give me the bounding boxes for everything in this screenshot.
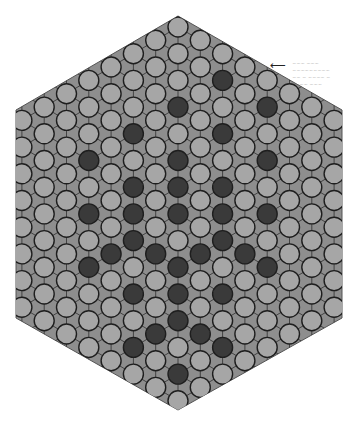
fuel-position-dark xyxy=(146,244,166,264)
fuel-position xyxy=(190,351,210,371)
fuel-position xyxy=(235,217,255,237)
fuel-position-dark xyxy=(79,204,99,224)
fuel-position xyxy=(57,271,77,291)
fuel-position xyxy=(324,110,344,130)
fuel-position xyxy=(101,271,121,291)
fuel-position xyxy=(235,191,255,211)
fuel-position xyxy=(34,284,54,304)
fuel-position-dark xyxy=(123,231,143,251)
fuel-position xyxy=(146,351,166,371)
fuel-position xyxy=(79,284,99,304)
fuel-position xyxy=(101,191,121,211)
fuel-position-dark xyxy=(168,204,188,224)
fuel-position xyxy=(213,257,233,277)
fuel-position xyxy=(324,217,344,237)
fuel-position xyxy=(280,217,300,237)
fuel-position-dark xyxy=(213,204,233,224)
fuel-position-dark xyxy=(257,257,277,277)
fuel-position xyxy=(302,151,322,171)
fuel-position xyxy=(12,110,32,130)
fuel-position xyxy=(146,217,166,237)
fuel-position xyxy=(34,177,54,197)
fuel-position xyxy=(123,70,143,90)
fuel-position-dark xyxy=(213,337,233,357)
fuel-position xyxy=(123,311,143,331)
fuel-position xyxy=(190,164,210,184)
fuel-position xyxy=(302,124,322,144)
fuel-position xyxy=(123,257,143,277)
fuel-position xyxy=(34,311,54,331)
fuel-position xyxy=(280,164,300,184)
fuel-position xyxy=(34,231,54,251)
fuel-position xyxy=(190,110,210,130)
fuel-position-dark xyxy=(123,284,143,304)
fuel-position xyxy=(146,110,166,130)
fuel-position xyxy=(57,217,77,237)
fuel-position xyxy=(235,57,255,77)
fuel-position xyxy=(168,70,188,90)
fuel-position-dark xyxy=(168,151,188,171)
fuel-position xyxy=(190,84,210,104)
fuel-position-dark xyxy=(213,124,233,144)
fuel-position-dark xyxy=(79,151,99,171)
fuel-position-dark xyxy=(213,231,233,251)
fuel-position xyxy=(235,164,255,184)
fuel-position xyxy=(146,164,166,184)
fuel-position xyxy=(79,231,99,251)
fuel-position xyxy=(146,137,166,157)
fuel-position xyxy=(280,191,300,211)
fuel-position xyxy=(79,177,99,197)
fuel-position xyxy=(190,377,210,397)
fuel-position xyxy=(79,337,99,357)
fuel-position xyxy=(190,137,210,157)
fuel-position xyxy=(190,191,210,211)
fuel-position xyxy=(12,217,32,237)
fuel-position xyxy=(257,70,277,90)
fuel-position-dark xyxy=(213,177,233,197)
fuel-position xyxy=(101,164,121,184)
fuel-position-dark xyxy=(146,324,166,344)
fuel-position xyxy=(57,244,77,264)
fuel-position xyxy=(146,297,166,317)
fuel-position xyxy=(123,151,143,171)
fuel-position-dark xyxy=(168,177,188,197)
fuel-position xyxy=(34,257,54,277)
fuel-position xyxy=(280,324,300,344)
fuel-position xyxy=(101,351,121,371)
fuel-position xyxy=(101,217,121,237)
fuel-position xyxy=(79,70,99,90)
fuel-position xyxy=(57,297,77,317)
fuel-position xyxy=(257,284,277,304)
fuel-position xyxy=(12,137,32,157)
fuel-position xyxy=(280,271,300,291)
fuel-position xyxy=(12,297,32,317)
fuel-position-dark xyxy=(123,204,143,224)
fuel-position-dark xyxy=(168,364,188,384)
fuel-position-dark xyxy=(190,324,210,344)
fuel-position xyxy=(146,271,166,291)
fuel-position xyxy=(168,44,188,64)
fuel-position xyxy=(235,84,255,104)
fuel-position xyxy=(190,271,210,291)
fuel-position xyxy=(213,97,233,117)
fuel-position xyxy=(213,151,233,171)
fuel-position xyxy=(190,217,210,237)
fuel-position xyxy=(101,297,121,317)
fuel-position xyxy=(79,124,99,144)
fuel-position xyxy=(168,124,188,144)
fuel-position xyxy=(146,84,166,104)
fuel-position xyxy=(168,337,188,357)
fuel-position xyxy=(235,324,255,344)
fuel-position xyxy=(12,164,32,184)
fuel-position-dark xyxy=(168,284,188,304)
fuel-position xyxy=(34,97,54,117)
fuel-position xyxy=(34,124,54,144)
fuel-position xyxy=(235,137,255,157)
fuel-position xyxy=(302,311,322,331)
fuel-position-dark xyxy=(168,311,188,331)
fuel-position xyxy=(324,297,344,317)
fuel-position xyxy=(12,191,32,211)
fuel-position xyxy=(57,137,77,157)
arrow-icon: ⟵ xyxy=(270,61,286,71)
fuel-position xyxy=(12,244,32,264)
